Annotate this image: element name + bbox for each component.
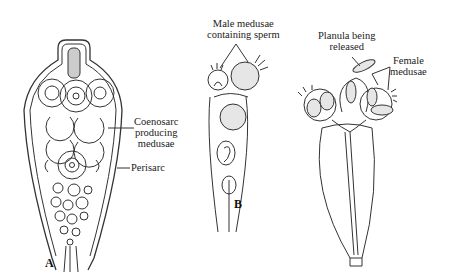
label-planula: Planula being released: [318, 30, 375, 52]
label-perisarc: Perisarc: [131, 162, 165, 173]
label-line: Planula being: [318, 30, 375, 41]
label-line: containing sperm: [207, 29, 280, 40]
label-line: Coenosarc: [134, 116, 178, 127]
panel-label-a: A: [45, 256, 54, 271]
label-line: Female: [390, 55, 427, 66]
female-gonangium-drawing: [298, 57, 397, 266]
label-female-medusae: Female medusae: [390, 55, 427, 77]
panel-label-b: B: [234, 197, 242, 212]
label-line: released: [318, 41, 375, 52]
diagram-canvas: [0, 0, 452, 277]
label-line: producing: [134, 127, 178, 138]
gonangium-a-drawing: [24, 40, 134, 272]
label-line: medusae: [390, 66, 427, 77]
label-line: Perisarc: [131, 162, 165, 173]
label-line: medusae: [134, 138, 178, 149]
label-line: Male medusae: [207, 18, 280, 29]
label-male-medusae: Male medusae containing sperm: [207, 18, 280, 40]
label-coenosarc: Coenosarc producing medusae: [134, 116, 178, 149]
